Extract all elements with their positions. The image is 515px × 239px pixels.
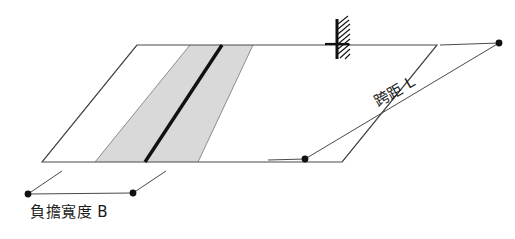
width-label: 負擔寬度 B: [30, 203, 108, 221]
width-dimension: 負擔寬度 B: [25, 171, 166, 221]
span-extension-upper: [440, 43, 499, 45]
width-extension-left: [28, 171, 62, 194]
span-marker-lower: [302, 156, 309, 163]
width-extension-right: [133, 171, 166, 193]
width-marker-right: [130, 190, 137, 197]
structural-diagram: 跨距 L 負擔寬度 B: [0, 0, 515, 239]
width-marker-left: [25, 191, 32, 198]
width-dimension-line: [28, 193, 133, 194]
figure-container: 跨距 L 負擔寬度 B: [0, 0, 515, 239]
span-marker-upper: [496, 40, 503, 47]
